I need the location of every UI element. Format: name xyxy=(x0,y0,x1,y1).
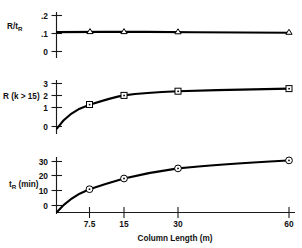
panel-middle-ytick-2: 2 xyxy=(43,91,48,101)
xtick-label-3: 60 xyxy=(284,219,294,229)
panel-top-ytick-1: .1 xyxy=(41,29,48,39)
three-panel-chart: R/tR .2 .1 0 R (k > 15) xyxy=(0,0,302,248)
panel-bottom-y-axis-label: tR (min) xyxy=(9,180,39,190)
panel-middle-y-axis-label: R (k > 15) xyxy=(3,92,40,101)
panel-top-ytick-2: .2 xyxy=(41,11,48,21)
panel-middle-series-line xyxy=(57,89,289,129)
panel-bottom-ytick-2: 20 xyxy=(39,171,49,181)
xtick-label-1: 15 xyxy=(119,219,129,229)
panel-top-y-axis-label: R/tR xyxy=(7,22,23,32)
panel-middle: R (k > 15) 3 2 1 0 xyxy=(3,79,292,134)
panel-middle-ytick-3: 3 xyxy=(43,79,48,89)
panel-bottom-ytick-3: 30 xyxy=(39,157,49,167)
xtick-label-2: 30 xyxy=(173,219,183,229)
panel-bottom: tR (min) 30 20 10 0 xyxy=(9,157,295,243)
panel-top-ytick-0: 0 xyxy=(43,47,48,57)
xtick-label-0: 7.5 xyxy=(84,219,96,229)
panel-bottom-ytick-1: 10 xyxy=(39,186,49,196)
panel-top: R/tR .2 .1 0 xyxy=(7,11,292,58)
panel-bottom-ytick-0: 0 xyxy=(43,201,48,211)
panel-middle-ytick-0: 0 xyxy=(43,122,48,132)
x-axis-title: Column Length (m) xyxy=(137,234,212,243)
chart-figure: R/tR .2 .1 0 R (k > 15) xyxy=(0,0,302,248)
panel-middle-ytick-1: 1 xyxy=(43,103,48,113)
